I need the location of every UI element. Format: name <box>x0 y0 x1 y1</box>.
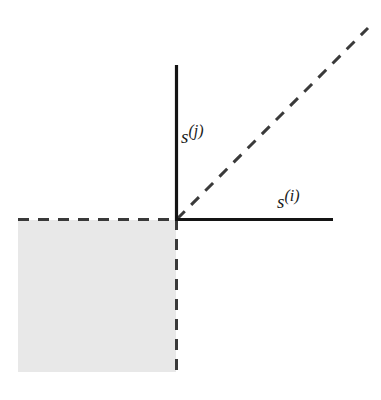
y-axis-label-superscript: (j) <box>188 122 203 139</box>
shaded-quadrant-region <box>18 220 176 372</box>
x-axis-label: s(i) <box>277 189 300 211</box>
diagram-svg <box>0 0 381 400</box>
figure-canvas: s(j) s(i) <box>0 0 381 400</box>
x-axis-label-superscript: (i) <box>284 187 299 204</box>
y-axis-label: s(j) <box>181 124 204 146</box>
diagonal-reference-line <box>177 28 368 219</box>
